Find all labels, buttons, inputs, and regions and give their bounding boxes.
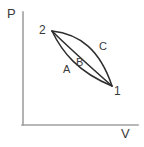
curve-a-label: A [63,64,70,75]
curve-c-label: C [99,41,107,52]
volume-axis-label: V [121,127,130,140]
pv-diagram-canvas [0,0,144,147]
pv-diagram-figure: P V 2 1 A B C [0,0,144,147]
state-point-2-label: 2 [39,24,46,36]
state-point-1-label: 1 [114,85,121,97]
pressure-axis-label: P [7,7,16,20]
curve-b-label: B [76,57,83,68]
